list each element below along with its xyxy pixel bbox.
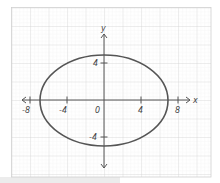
y-axis-label: y xyxy=(100,24,106,33)
origin-label: 0 xyxy=(95,106,100,115)
y-tick-label-neg4: -4 xyxy=(89,133,97,142)
x-tick-label-neg8: -8 xyxy=(22,106,30,115)
x-tick-label-neg4: -4 xyxy=(59,106,67,115)
x-tick-label-pos4: 4 xyxy=(138,106,143,115)
ellipse-graph: x y -8 -4 0 4 8 4 -4 xyxy=(0,0,220,183)
x-axis-label: x xyxy=(192,96,198,105)
y-tick-label-pos4: 4 xyxy=(93,59,98,68)
x-tick-label-pos8: 8 xyxy=(175,106,180,115)
